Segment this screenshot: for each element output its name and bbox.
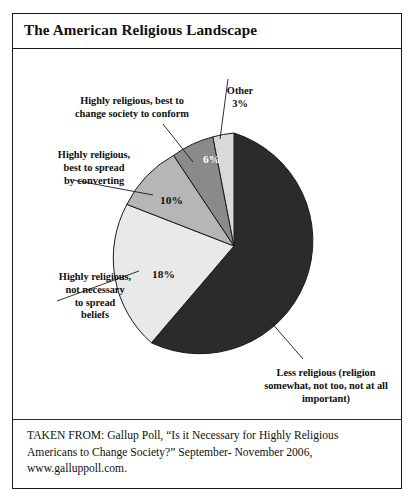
slice-percent-less-religious: 63%: [310, 295, 333, 307]
slice-percent-best-to-spread-by-converting: 10%: [160, 194, 183, 206]
callout-notnecessary-line1: Highly religious,: [21, 271, 169, 284]
page-title: The American Religious Landscape: [24, 21, 257, 39]
callout-notnecessary-line4: beliefs: [21, 309, 169, 322]
callout-label-not-necessary-to-spread: Highly religious, not necessary to sprea…: [21, 271, 169, 322]
callout-lessreligious-line3: important): [241, 393, 411, 406]
callout-label-best-to-spread-by-converting: Highly religious, best to spread by conv…: [21, 149, 167, 187]
callout-converting-line3: by converting: [21, 175, 167, 188]
callout-notnecessary-line2: not necessary: [21, 284, 169, 297]
document-frame: The American Religious Landscape: [12, 13, 402, 489]
callout-label-change-society-to-conform: Highly religious, best to change society…: [41, 95, 223, 121]
callout-lessreligious-line2: somewhat, not too, not at all: [241, 380, 411, 393]
callout-conform-line2: change society to conform: [41, 108, 223, 121]
pie-chart: Other 3% Highly religious, best to chang…: [13, 49, 401, 419]
slice-percent-not-necessary-to-spread: 18%: [152, 268, 175, 280]
caption-divider: [13, 419, 401, 420]
callout-label-less-religious: Less religious (religion somewhat, not t…: [241, 367, 411, 405]
source-caption: TAKEN FROM: Gallup Poll, “Is it Necessar…: [27, 428, 385, 478]
screenshot-page: The American Religious Landscape: [0, 0, 416, 503]
callout-lessreligious-line1: Less religious (religion: [241, 367, 411, 380]
callout-conform-line1: Highly religious, best to: [41, 95, 223, 108]
callout-converting-line1: Highly religious,: [21, 149, 167, 162]
leader-line-less-religious: [270, 321, 303, 359]
callout-notnecessary-line3: to spread: [21, 297, 169, 310]
callout-converting-line2: best to spread: [21, 162, 167, 175]
slice-percent-change-society-to-conform: 6%: [203, 153, 220, 165]
title-bar: The American Religious Landscape: [13, 14, 401, 49]
